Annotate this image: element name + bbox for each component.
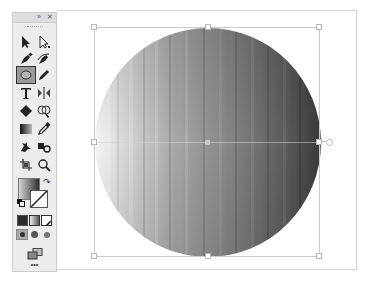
curvature-pen-icon: [37, 52, 51, 66]
ellipse-icon: [19, 68, 33, 82]
selection-tool[interactable]: [18, 34, 34, 50]
handle-bottom-center[interactable]: [205, 253, 211, 259]
handle-top-left[interactable]: [91, 24, 97, 30]
puppet-warp-icon: [19, 140, 33, 154]
magnifier-icon: [37, 158, 51, 172]
collapse-icon[interactable]: »: [37, 12, 41, 22]
gradient-tool[interactable]: [18, 121, 34, 137]
shape-builder-tool[interactable]: [36, 103, 52, 119]
handle-top-right[interactable]: [316, 24, 322, 30]
pen-icon: [19, 52, 33, 66]
reflect-icon: [37, 86, 51, 100]
pen-tool[interactable]: [18, 51, 34, 67]
none-mode-button[interactable]: [41, 215, 52, 226]
curvature-tool[interactable]: [36, 51, 52, 67]
draw-behind-button[interactable]: [30, 230, 40, 240]
reflect-tool[interactable]: [36, 85, 52, 101]
pencil-icon: [37, 68, 51, 82]
tools-panel-header[interactable]: » ✕: [13, 13, 56, 23]
default-fill-stroke-icon[interactable]: [17, 199, 24, 206]
handle-top-center[interactable]: [205, 24, 211, 30]
swap-fill-stroke-icon[interactable]: ↷: [43, 178, 51, 187]
puppet-warp-tool[interactable]: [18, 139, 34, 155]
direct-selection-tool[interactable]: [36, 34, 52, 50]
draw-normal-button[interactable]: [16, 229, 28, 240]
ellipse-tool[interactable]: [16, 66, 36, 84]
none-stroke-icon: [31, 191, 47, 207]
none-icon: [42, 221, 51, 226]
color-mode-button[interactable]: [17, 215, 28, 226]
screen-mode-icon: [27, 248, 43, 260]
eyedropper-icon: [37, 122, 51, 136]
zoom-tool[interactable]: [36, 157, 52, 173]
edit-toolbar-button[interactable]: •••: [13, 261, 56, 268]
handle-bottom-right[interactable]: [316, 253, 322, 259]
panel-grip[interactable]: [27, 26, 43, 29]
close-icon[interactable]: ✕: [47, 12, 53, 22]
artboard-tool[interactable]: [18, 157, 34, 173]
eraser-icon: [19, 104, 33, 118]
tools-panel: » ✕: [12, 12, 57, 272]
artboard-icon: [19, 158, 33, 172]
handle-middle-left[interactable]: [91, 139, 97, 145]
selection-arrow-icon: [19, 35, 33, 49]
pie-widget-handle[interactable]: [326, 139, 333, 146]
center-point[interactable]: [205, 140, 210, 145]
symbol-sprayer-icon: [37, 140, 51, 154]
stroke-swatch[interactable]: [30, 190, 48, 208]
draw-inside-icon: [44, 232, 50, 238]
pencil-tool[interactable]: [36, 67, 52, 83]
symbol-sprayer-tool[interactable]: [36, 139, 52, 155]
draw-normal-icon: [20, 232, 25, 237]
draw-behind-icon: [31, 231, 38, 238]
direct-selection-arrow-icon: [37, 35, 51, 49]
gradient-mode-button[interactable]: [29, 215, 40, 226]
type-icon: [19, 86, 33, 100]
eyedropper-tool[interactable]: [36, 121, 52, 137]
shape-builder-icon: [37, 104, 51, 118]
type-tool[interactable]: [18, 85, 34, 101]
draw-inside-button[interactable]: [42, 230, 52, 240]
screen-mode-button[interactable]: [27, 246, 43, 258]
gradient-icon: [19, 122, 33, 136]
handle-middle-right[interactable]: [316, 139, 322, 145]
handle-bottom-left[interactable]: [91, 253, 97, 259]
eraser-tool[interactable]: [18, 103, 34, 119]
